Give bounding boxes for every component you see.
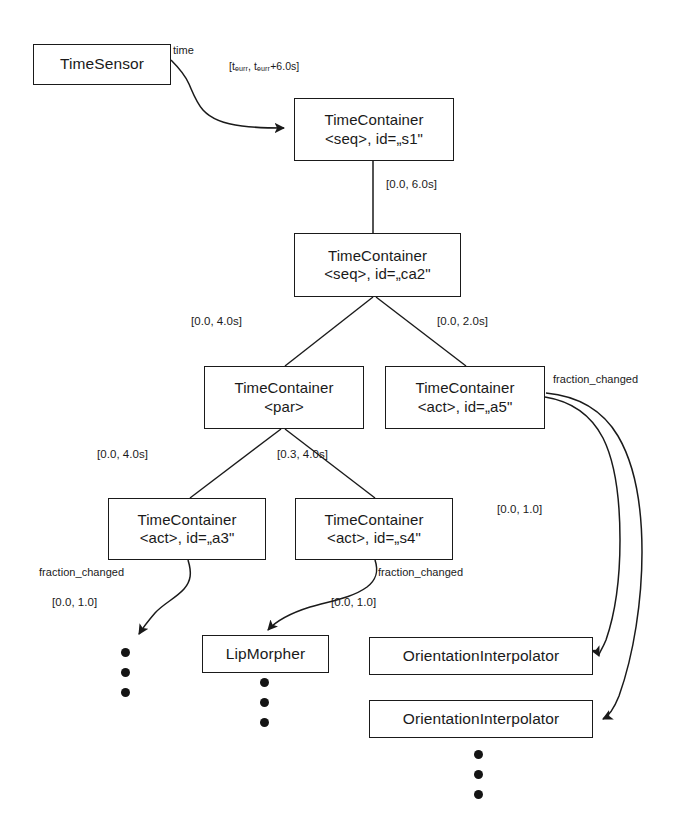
node-timecontainer-a3[interactable]: TimeContainer <act>, id=„a3": [108, 498, 266, 560]
edge-label-range-s4-lip: [0.0, 1.0]: [331, 596, 376, 608]
edge-a3-to-dots: [139, 560, 190, 634]
edge-label-fraction-a5: fraction_changed: [553, 373, 638, 385]
edge-par-to-s4: [285, 429, 375, 498]
node-timecontainer-par-type: TimeContainer: [234, 379, 333, 397]
diagram-canvas: TimeSensor TimeContainer <seq>, id=„s1" …: [0, 0, 698, 833]
edge-label-fraction-a3: fraction_changed: [39, 566, 124, 578]
node-orientationinterpolator-1-label: OrientationInterpolator: [403, 647, 560, 666]
node-timecontainer-a5-type: TimeContainer: [415, 379, 514, 397]
edge-ca2-to-par: [285, 297, 373, 366]
edge-label-range-ca2-par: [0.0, 4.0s]: [191, 315, 242, 327]
edge-a5-to-orientation1: [545, 397, 620, 656]
node-timesensor-label: TimeSensor: [60, 55, 144, 74]
edge-label-range-a3-dots: [0.0, 1.0]: [52, 596, 97, 608]
node-timecontainer-ca2-type: TimeContainer: [328, 247, 427, 265]
node-lipmorpher-label: LipMorpher: [226, 645, 305, 664]
node-timesensor[interactable]: TimeSensor: [33, 44, 171, 85]
ellipsis-dots-a3: [121, 648, 130, 697]
node-timecontainer-a5-id: <act>, id=„a5": [418, 398, 513, 416]
edge-ca2-to-a5: [376, 297, 466, 366]
node-timecontainer-s1-id: <seq>, id=„s1": [325, 130, 423, 148]
ellipsis-dots-orientationinterpolator: [474, 750, 483, 799]
node-orientationinterpolator-2-label: OrientationInterpolator: [403, 710, 560, 729]
edge-label-tcurr-range: [tₑᵤᵣᵣ, tₑᵤᵣᵣ+6.0s]: [229, 60, 299, 72]
node-timecontainer-par[interactable]: TimeContainer <par>: [204, 366, 364, 429]
edge-par-to-a3: [190, 429, 281, 498]
node-timecontainer-s1-type: TimeContainer: [324, 111, 423, 129]
edge-label-range-par-s4: [0.3, 4.0s]: [277, 448, 328, 460]
node-timecontainer-s4[interactable]: TimeContainer <act>, id=„s4": [295, 498, 453, 560]
edge-label-time-port: time: [173, 44, 194, 56]
edge-label-fraction-s4: fraction_changed: [378, 566, 463, 578]
node-timecontainer-ca2-id: <seq>, id=„ca2": [324, 265, 430, 283]
node-timecontainer-s1[interactable]: TimeContainer <seq>, id=„s1": [294, 98, 454, 161]
node-timecontainer-par-mode: <par>: [264, 398, 304, 416]
edge-label-range-s1-ca2: [0.0, 6.0s]: [386, 178, 437, 190]
node-timecontainer-s4-id: <act>, id=„s4": [327, 529, 421, 547]
edge-s4-to-lipmorpher: [268, 560, 377, 630]
edge-label-range-ca2-a5: [0.0, 2.0s]: [437, 315, 488, 327]
node-timecontainer-ca2[interactable]: TimeContainer <seq>, id=„ca2": [294, 233, 461, 297]
node-lipmorpher[interactable]: LipMorpher: [202, 635, 329, 673]
node-timecontainer-a5[interactable]: TimeContainer <act>, id=„a5": [385, 366, 545, 429]
edge-label-range-par-a3: [0.0, 4.0s]: [97, 448, 148, 460]
node-orientationinterpolator-2[interactable]: OrientationInterpolator: [369, 700, 593, 738]
node-timecontainer-a3-id: <act>, id=„a3": [140, 529, 235, 547]
ellipsis-dots-lipmorpher: [260, 678, 269, 727]
node-timecontainer-a3-type: TimeContainer: [137, 511, 236, 529]
node-timecontainer-s4-type: TimeContainer: [324, 511, 423, 529]
edge-label-range-a5-interp: [0.0, 1.0]: [497, 503, 542, 515]
node-orientationinterpolator-1[interactable]: OrientationInterpolator: [369, 637, 593, 675]
